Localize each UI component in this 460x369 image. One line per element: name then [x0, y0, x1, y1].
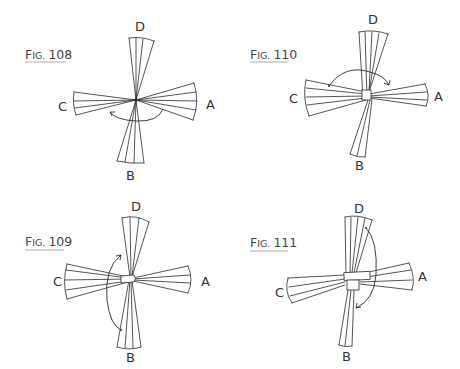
rotation-arrow: [110, 109, 163, 121]
figure-caption: FIG.109: [25, 234, 72, 250]
svg-text:FIG.108: FIG.108: [25, 47, 72, 62]
diagram-canvas: FIG.108 D B C A FIG.110: [0, 0, 460, 369]
label-b: B: [126, 350, 135, 365]
label-b: B: [126, 168, 135, 183]
svg-text:FIG.110: FIG.110: [250, 47, 297, 62]
label-c: C: [58, 99, 67, 114]
strip-bundle-d: [129, 37, 154, 100]
figure-caption: FIG.111: [250, 235, 297, 251]
label-d: D: [368, 12, 378, 27]
label-d: D: [135, 19, 145, 34]
rotation-arrow: [107, 255, 122, 331]
rotation-arrow: [328, 70, 390, 87]
label-d: D: [354, 201, 364, 216]
strip-bundle-a: [133, 266, 191, 293]
figure-caption: FIG.108: [25, 47, 72, 62]
figure-111: FIG.111 D B C A: [250, 201, 427, 364]
label-b: B: [355, 158, 364, 173]
center-band: [121, 275, 136, 283]
label-a: A: [418, 269, 427, 284]
strip-bundle-d: [345, 216, 372, 275]
label-c: C: [53, 274, 62, 289]
svg-text:FIG.111: FIG.111: [250, 235, 297, 250]
center-wrap-square: [347, 280, 359, 290]
strip-bundle-b: [117, 280, 141, 349]
figure-108: FIG.108 D B C A: [25, 19, 215, 183]
strip-bundle-b: [117, 100, 144, 163]
center-wrap: [362, 90, 371, 100]
strip-bundle-c: [287, 275, 345, 303]
label-a: A: [434, 89, 443, 104]
center-band-horizontal: [344, 271, 370, 280]
strip-bundle-c: [305, 80, 366, 116]
label-c: C: [275, 285, 284, 300]
label-b: B: [342, 349, 351, 364]
strip-bundle-c: [65, 264, 129, 299]
strip-bundle-b: [339, 290, 354, 347]
svg-text:FIG.109: FIG.109: [25, 234, 72, 249]
strip-bundle-a: [369, 84, 428, 106]
label-d: D: [131, 199, 141, 214]
strip-bundle-b: [350, 100, 372, 157]
label-a: A: [201, 274, 210, 289]
figure-caption: FIG.110: [250, 47, 297, 62]
label-c: C: [289, 91, 298, 106]
strip-bundle-d: [122, 217, 149, 277]
strip-bundle-d: [359, 31, 388, 97]
label-a: A: [206, 97, 215, 112]
figure-110: FIG.110 D B C A: [250, 12, 443, 173]
strip-bundle-c: [73, 92, 136, 115]
strip-bundle-a: [136, 83, 197, 120]
figure-109: FIG.109 D B C A: [25, 199, 210, 365]
pivot-point: [135, 99, 138, 102]
